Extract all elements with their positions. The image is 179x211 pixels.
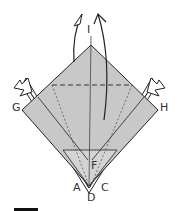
label-i: I bbox=[87, 24, 90, 35]
label-f: F bbox=[91, 160, 97, 171]
label-g: G bbox=[12, 102, 21, 113]
push-arrow-left bbox=[14, 78, 32, 96]
label-d: D bbox=[87, 192, 95, 203]
arrowhead-left bbox=[74, 14, 82, 26]
label-h: H bbox=[160, 102, 168, 113]
push-arrow-right bbox=[147, 78, 165, 96]
scale-bar bbox=[14, 208, 38, 211]
label-c: C bbox=[101, 182, 109, 193]
label-a: A bbox=[73, 182, 81, 193]
